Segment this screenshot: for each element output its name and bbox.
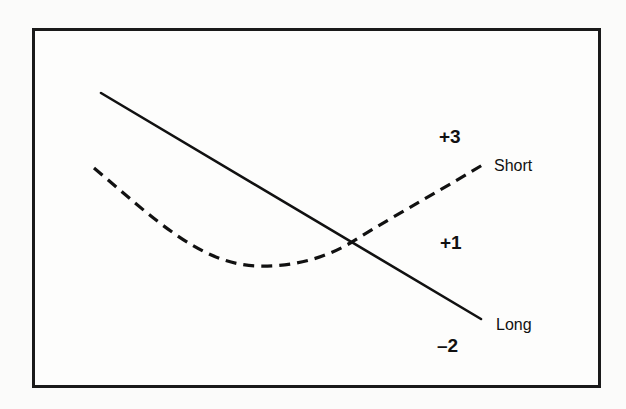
short-label: Short <box>494 158 532 174</box>
plus-three-label: +3 <box>439 127 461 146</box>
short-line <box>94 164 484 266</box>
minus-two-label: –2 <box>437 336 458 355</box>
long-line <box>101 93 481 319</box>
plus-one-label: +1 <box>440 233 462 252</box>
long-label: Long <box>496 317 532 333</box>
diagram-plot <box>0 0 626 409</box>
